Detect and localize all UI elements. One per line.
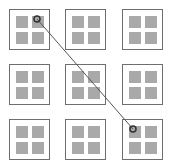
connection-overlay xyxy=(0,0,170,167)
connection-line xyxy=(37,19,133,129)
